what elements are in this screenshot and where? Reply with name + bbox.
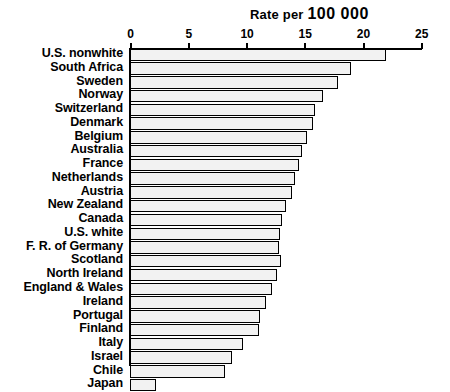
chart-title: Rate per 100 000 — [250, 6, 450, 22]
bar — [130, 241, 279, 253]
bar-row: Israel — [0, 351, 450, 365]
category-label: Netherlands — [52, 171, 123, 185]
bar — [130, 186, 292, 198]
category-label: F. R. of Germany — [26, 240, 123, 254]
x-axis-tick-label: 0 — [127, 28, 134, 40]
bar — [130, 283, 272, 295]
bar — [130, 62, 351, 74]
category-label: Belgium — [74, 130, 123, 144]
bar — [130, 365, 225, 377]
category-label: Chile — [93, 364, 123, 378]
category-label: Switzerland — [55, 102, 123, 116]
bar-row: Ireland — [0, 296, 450, 310]
x-axis-tick-label: 15 — [299, 28, 312, 40]
category-label: Portugal — [73, 309, 123, 323]
bar-row: Japan — [0, 378, 450, 392]
bar-row: England & Wales — [0, 282, 450, 296]
bar-row: Chile — [0, 365, 450, 379]
bar-row: F. R. of Germany — [0, 241, 450, 255]
plot-area: U.S. nonwhiteSouth AfricaSwedenNorwaySwi… — [0, 48, 450, 368]
bar — [130, 379, 156, 391]
bar — [130, 200, 286, 212]
category-label: North Ireland — [47, 267, 123, 281]
bar — [130, 269, 277, 281]
bar — [130, 117, 313, 129]
bar — [130, 296, 266, 308]
bar-row: Finland — [0, 323, 450, 337]
bar-row: Denmark — [0, 117, 450, 131]
category-label: New Zealand — [48, 198, 123, 212]
bar-row: Italy — [0, 337, 450, 351]
category-label: Italy — [98, 336, 123, 350]
bar — [130, 49, 386, 61]
chart-title-prefix: Rate per — [250, 7, 307, 22]
bar — [130, 338, 243, 350]
bar — [130, 214, 282, 226]
bar — [130, 310, 260, 322]
x-axis-tick-label: 25 — [415, 28, 428, 40]
y-axis-line — [129, 48, 131, 366]
bar-row: Australia — [0, 144, 450, 158]
x-axis-tick-label: 20 — [357, 28, 370, 40]
category-label: U.S. nonwhite — [42, 47, 123, 61]
bar — [130, 131, 307, 143]
category-label: Scotland — [71, 253, 123, 267]
category-label: Austria — [81, 185, 123, 199]
bar-row: Sweden — [0, 76, 450, 90]
category-label: Canada — [78, 212, 123, 226]
bar — [130, 351, 232, 363]
bar-row: Switzerland — [0, 103, 450, 117]
category-label: Denmark — [70, 116, 123, 130]
bar — [130, 76, 338, 88]
bar — [130, 172, 295, 184]
x-axis-tick-label: 5 — [186, 28, 193, 40]
category-label: Israel — [91, 350, 123, 364]
bar-row: New Zealand — [0, 199, 450, 213]
bar — [130, 159, 299, 171]
category-label: South Africa — [50, 61, 123, 75]
category-label: U.S. white — [64, 226, 123, 240]
bar — [130, 255, 281, 267]
chart-title-emphasis: 100 000 — [307, 5, 368, 22]
bar — [130, 228, 280, 240]
bar — [130, 145, 302, 157]
category-label: Ireland — [83, 295, 123, 309]
category-label: England & Wales — [24, 281, 123, 295]
category-label: Australia — [70, 143, 123, 157]
bar — [130, 324, 259, 336]
bar — [130, 90, 323, 102]
category-label: Finland — [79, 322, 123, 336]
category-label: Japan — [87, 377, 123, 391]
bar-row: South Africa — [0, 62, 450, 76]
category-label: France — [83, 157, 123, 171]
category-label: Sweden — [76, 75, 123, 89]
bar-row: Portugal — [0, 310, 450, 324]
x-axis-tick-label: 10 — [240, 28, 253, 40]
bar-row: Netherlands — [0, 172, 450, 186]
bar — [130, 104, 315, 116]
bar-row: Belgium — [0, 131, 450, 145]
category-label: Norway — [78, 88, 123, 102]
bar-rows: U.S. nonwhiteSouth AfricaSwedenNorwaySwi… — [0, 48, 450, 392]
